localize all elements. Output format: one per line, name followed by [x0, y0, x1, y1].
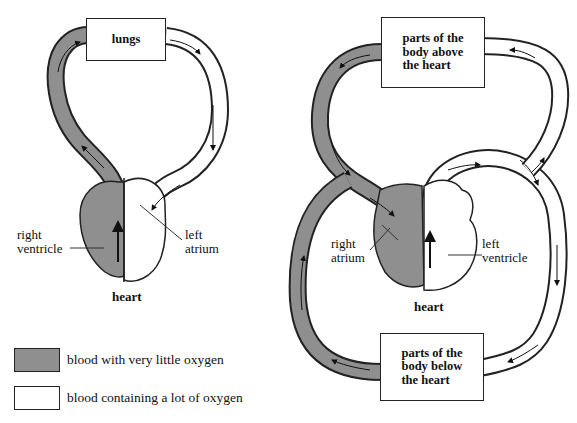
lungs-label: lungs	[112, 33, 141, 47]
right-ventricle-label-left: right ventricle	[17, 228, 62, 256]
heart-label-pulmonary: heart	[112, 290, 142, 304]
right-atrium-label: right atrium	[331, 237, 365, 265]
left-ventricle-label: left ventricle	[482, 237, 527, 265]
heart-label-systemic: heart	[414, 300, 444, 314]
lower-body-box: parts of the body below the heart	[380, 333, 484, 401]
gray-swatch	[14, 348, 60, 372]
left-atrium-label: left atrium	[185, 228, 219, 256]
white-swatch	[14, 386, 60, 410]
lungs-box: lungs	[86, 18, 166, 61]
legend-item-deoxygenated: blood with very little oxygen	[14, 348, 224, 372]
legend-item-oxygenated: blood containing a lot of oxygen	[14, 386, 243, 410]
systemic-circuit	[298, 46, 561, 372]
upper-body-box: parts of the body above the heart	[381, 17, 485, 88]
